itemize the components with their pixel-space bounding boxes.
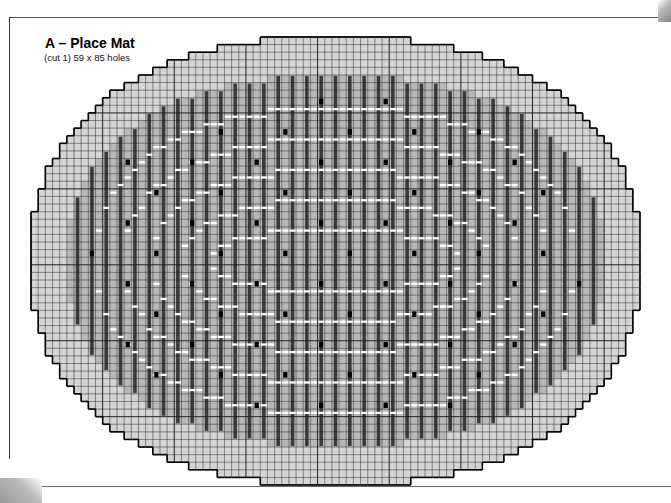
grid-cell	[253, 257, 260, 265]
grid-cell	[432, 67, 439, 75]
grid-cell	[497, 401, 504, 409]
grid-cell	[296, 280, 303, 288]
horizontal-stitch	[454, 366, 461, 368]
grid-cell	[325, 60, 332, 68]
grid-cell	[138, 90, 145, 98]
grid-cell	[217, 83, 224, 91]
grid-cell	[511, 151, 518, 159]
grid-cell	[511, 189, 518, 197]
grid-cell	[490, 439, 497, 447]
grid-cell	[511, 75, 518, 83]
grid-cell	[368, 265, 375, 273]
horizontal-stitch	[160, 222, 167, 224]
horizontal-stitch	[332, 321, 339, 323]
grid-cell	[210, 67, 217, 75]
grid-cell	[540, 90, 547, 98]
grid-cell	[368, 462, 375, 470]
grid-cell	[547, 128, 554, 136]
grid-cell	[181, 83, 188, 91]
grid-cell	[167, 356, 174, 364]
grid-cell	[396, 37, 403, 45]
grid-cell	[382, 181, 389, 189]
grid-cell	[267, 113, 274, 121]
grid-cell	[239, 45, 246, 53]
grid-cell	[382, 477, 389, 485]
grid-cell	[167, 219, 174, 227]
grid-cell	[67, 196, 74, 204]
grid-cell	[368, 189, 375, 197]
grid-cell	[533, 90, 540, 98]
grid-cell	[60, 212, 67, 220]
grid-cell	[382, 333, 389, 341]
grid-cell	[95, 394, 102, 402]
grid-cell	[568, 151, 575, 159]
grid-cell	[368, 470, 375, 478]
grid-cell	[382, 52, 389, 60]
grid-cell	[181, 105, 188, 113]
grid-cell	[325, 128, 332, 136]
grid-cell	[525, 424, 532, 432]
horizontal-stitch	[361, 169, 368, 171]
grid-cell	[110, 181, 117, 189]
grid-cell	[160, 83, 167, 91]
horizontal-stitch	[375, 169, 382, 171]
horizontal-stitch	[411, 207, 418, 209]
grid-cell	[633, 212, 640, 220]
grid-cell	[626, 303, 633, 311]
horizontal-stitch	[418, 116, 425, 118]
grid-cell	[38, 250, 45, 258]
horizontal-stitch	[482, 245, 489, 247]
grid-cell	[153, 113, 160, 121]
grid-cell	[246, 447, 253, 455]
grid-cell	[38, 310, 45, 318]
grid-cell	[619, 196, 626, 204]
grid-cell	[138, 394, 145, 402]
grid-cell	[232, 60, 239, 68]
grid-cell	[153, 341, 160, 349]
grid-cell	[482, 234, 489, 242]
grid-cell	[404, 75, 411, 83]
grid-cell	[396, 45, 403, 53]
grid-cell	[67, 166, 74, 174]
horizontal-stitch	[267, 412, 274, 414]
grid-cell	[153, 409, 160, 417]
grid-cell	[339, 128, 346, 136]
horizontal-stitch	[260, 404, 267, 406]
grid-cell	[425, 288, 432, 296]
grid-cell	[81, 318, 88, 326]
grid-cell	[60, 371, 67, 379]
grid-cell	[468, 364, 475, 372]
horizontal-stitch	[511, 184, 518, 186]
grid-cell	[117, 386, 124, 394]
horizontal-stitch	[454, 336, 461, 338]
grid-cell	[81, 364, 88, 372]
grid-cell	[604, 318, 611, 326]
grid-cell	[554, 288, 561, 296]
grid-cell	[561, 128, 568, 136]
grid-cell	[339, 113, 346, 121]
grid-cell	[167, 143, 174, 151]
grid-cell	[310, 219, 317, 227]
horizontal-stitch	[310, 412, 317, 414]
grid-cell	[619, 272, 626, 280]
horizontal-stitch	[267, 313, 274, 315]
horizontal-stitch	[325, 229, 332, 231]
grid-cell	[375, 60, 382, 68]
grid-cell	[181, 143, 188, 151]
grid-cell	[633, 288, 640, 296]
grid-cell	[95, 401, 102, 409]
grid-cell	[260, 67, 267, 75]
horizontal-stitch	[253, 116, 260, 118]
grid-cell	[439, 45, 446, 53]
grid-cell	[583, 212, 590, 220]
horizontal-stitch	[131, 214, 138, 216]
horizontal-stitch	[138, 207, 145, 209]
grid-cell	[196, 417, 203, 425]
grid-cell	[239, 303, 246, 311]
grid-cell	[382, 417, 389, 425]
grid-cell	[153, 83, 160, 91]
grid-cell	[454, 189, 461, 197]
grid-cell	[181, 364, 188, 372]
grid-cell	[626, 227, 633, 235]
grid-cell	[611, 310, 618, 318]
